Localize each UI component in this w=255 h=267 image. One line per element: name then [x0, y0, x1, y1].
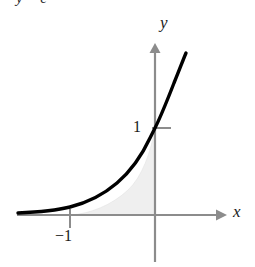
- y-axis-arrowhead: [150, 43, 161, 53]
- x-axis-label: x: [233, 203, 241, 220]
- y-tick-label-one: 1: [133, 119, 141, 135]
- plot-canvas: [0, 0, 255, 267]
- exponential-curve: [18, 53, 186, 213]
- x-axis-arrowhead: [216, 210, 227, 221]
- x-tick-label-negative-one: −1: [55, 228, 72, 244]
- exponential-function-figure: y = e y x 1 −1: [0, 0, 255, 267]
- y-axis-label: y: [160, 14, 168, 31]
